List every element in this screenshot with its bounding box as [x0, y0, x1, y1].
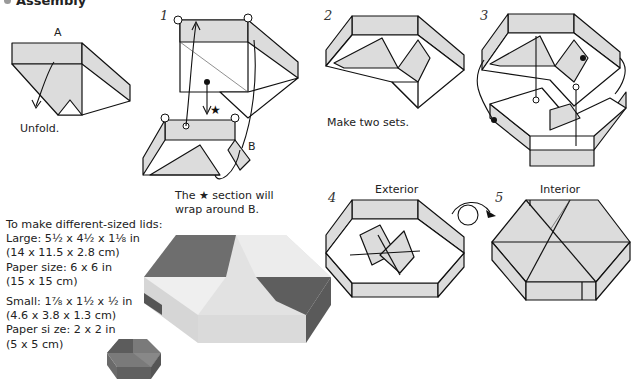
large-dims-in: Large: 5½ x 4½ x 1⅛ in [6, 232, 140, 245]
lids-heading: To make different-sized lids: [6, 218, 162, 231]
small-dims-cm: (4.6 x 3.8 x 1.3 cm) [6, 309, 116, 322]
caption-unfold: Unfold. [20, 122, 59, 136]
large-dims-cm: (14 x 11.5 x 2.8 cm) [6, 246, 120, 259]
label-b: B [248, 140, 256, 153]
diagram-step-1: ★ B [140, 0, 320, 190]
large-paper-cm: (15 x 15 cm) [6, 275, 78, 288]
large-paper-in: Paper size: 6 x 6 in [6, 261, 112, 274]
diagram-step-5-interior [490, 200, 632, 305]
small-paper-in: Paper si ze: 2 x 2 in [6, 323, 116, 336]
photo-small-lid [105, 335, 167, 383]
diagram-step-2 [300, 0, 470, 120]
diagram-step-unfold [0, 0, 160, 130]
small-paper-cm: (5 x 5 cm) [6, 338, 63, 351]
title-interior: Interior [540, 183, 580, 196]
svg-text:★: ★ [210, 103, 221, 117]
diagram-step-3 [470, 0, 630, 170]
caption-step-1-line1: The ★ section will [175, 189, 274, 203]
caption-step-2: Make two sets. [327, 116, 409, 130]
caption-step-1-line2: wrap around B. [175, 203, 259, 217]
small-dims-in: Small: 1⅞ x 1½ x ½ in [6, 295, 132, 308]
